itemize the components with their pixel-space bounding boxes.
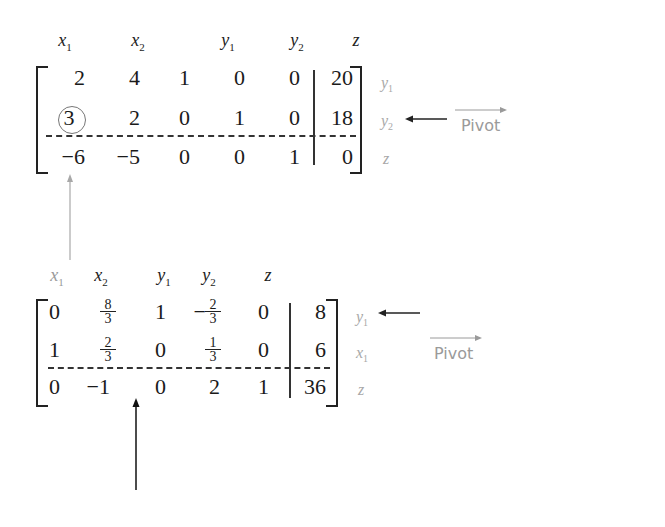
cell: −5 [100,145,140,169]
rhs-cell: 36 [296,375,326,399]
cell: 0 [150,338,166,362]
row-label-z: z [383,150,389,168]
cell: 0 [46,300,60,324]
fraction-cell: 13 [205,336,221,363]
cell: 0 [160,145,190,169]
col-header-y2: y2 [282,30,312,53]
augment-divider [313,70,315,165]
col-header-x1: x1 [42,265,72,288]
row-label-y1: y1 [356,308,368,328]
cell: 1 [46,338,60,362]
pivot-arrow-icon [430,334,482,342]
cell: − [190,300,206,324]
leaving-variable-arrow-icon [405,114,447,124]
cell: 0 [270,66,300,90]
objective-row-divider [48,367,330,369]
col-header-y1: y1 [149,265,179,288]
fraction-cell: 23 [205,298,221,325]
fraction-cell: 83 [100,298,116,325]
cell: 1 [160,66,190,90]
cell: 0 [215,145,245,169]
row-label-y2: y2 [381,112,393,132]
cell: 2 [204,375,220,399]
entering-variable-arrow-icon [130,398,142,490]
col-header-x1: x1 [50,30,80,53]
cell: 2 [110,106,140,130]
row-label-x1: x1 [356,344,368,364]
row-label-z: z [358,381,364,399]
cell: 1 [150,300,166,324]
cell: 0 [215,66,245,90]
fraction-cell: 23 [100,336,116,363]
rhs-cell: 8 [296,300,326,324]
col-header-z: z [253,265,283,286]
cell: 1 [215,106,245,130]
pivot-label: Pivot [434,344,473,363]
rhs-cell: 18 [320,106,353,130]
col-header-y2: y2 [194,265,224,288]
cell: 0 [270,106,300,130]
augment-divider [289,303,291,398]
cell: 4 [110,66,140,90]
entering-variable-arrow-icon [64,174,76,260]
cell: 0 [160,106,190,130]
right-bracket [326,299,338,407]
pivot-arrow-icon [455,106,507,114]
col-header-z: z [326,30,386,51]
rhs-cell: 0 [320,145,353,169]
pivot-column-cell: −1 [80,375,110,399]
cell: 0 [253,338,269,362]
pivot-element: 3 [54,106,84,130]
leaving-variable-arrow-icon [378,308,420,318]
objective-row-divider [46,135,356,137]
row-label-y1: y1 [381,74,393,94]
pivot-label: Pivot [461,116,500,135]
cell: 1 [270,145,300,169]
rhs-cell: 20 [320,66,353,90]
cell: 1 [253,375,269,399]
col-header-y1: y1 [213,30,243,53]
cell: 2 [55,66,85,90]
col-header-x2: x2 [123,30,153,53]
cell: 0 [46,375,60,399]
rhs-cell: 6 [296,338,326,362]
cell: 0 [150,375,166,399]
cell: −6 [42,145,85,169]
cell: 0 [253,300,269,324]
col-header-x2: x2 [86,265,116,288]
